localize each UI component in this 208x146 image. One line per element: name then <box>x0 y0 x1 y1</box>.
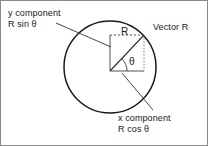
radius-label: R <box>121 26 128 37</box>
theta-angle-arc <box>122 59 127 71</box>
y-component-label: y component R sin θ <box>8 8 61 30</box>
vector-r-label: Vector R <box>153 22 188 33</box>
x-component-label: x component R cos θ <box>118 113 171 135</box>
theta-label: θ <box>129 56 135 67</box>
y-component-label-line2: R sin θ <box>8 19 61 30</box>
x-component-label-line2: R cos θ <box>118 124 171 135</box>
x-component-label-line1: x component <box>118 113 171 124</box>
y-component-label-line1: y component <box>8 8 61 19</box>
vector-r-line <box>110 35 144 71</box>
vector-diagram-figure: y component R sin θ Vector R x component… <box>0 0 208 146</box>
y-component-leader-line <box>56 23 111 47</box>
